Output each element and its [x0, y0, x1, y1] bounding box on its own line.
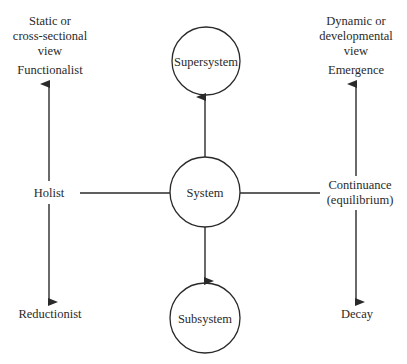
- subsystem-label: Subsystem: [178, 312, 232, 327]
- continuance-line-2: (equilibrium): [327, 193, 394, 208]
- holist-label: Holist: [32, 186, 67, 201]
- continuance-label: Continuance (equilibrium): [325, 177, 396, 209]
- right-header-line-3: view: [319, 44, 393, 59]
- functionalist-label: Functionalist: [17, 63, 82, 78]
- right-header-line-2: developmental: [319, 29, 393, 44]
- left-header-line-3: view: [13, 44, 87, 59]
- right-header-line-1: Dynamic or: [319, 14, 393, 29]
- reductionist-label: Reductionist: [18, 307, 81, 322]
- supersystem-label: Supersystem: [174, 55, 238, 70]
- system-label: System: [187, 186, 224, 201]
- left-header-line-2: cross-sectional: [13, 29, 87, 44]
- decay-label: Decay: [341, 307, 373, 322]
- left-header-line-1: Static or: [13, 14, 87, 29]
- emergence-label: Emergence: [328, 63, 384, 78]
- left-axis-header: Static or cross-sectional view: [13, 14, 87, 59]
- right-axis-header: Dynamic or developmental view: [319, 14, 393, 59]
- continuance-line-1: Continuance: [327, 178, 394, 193]
